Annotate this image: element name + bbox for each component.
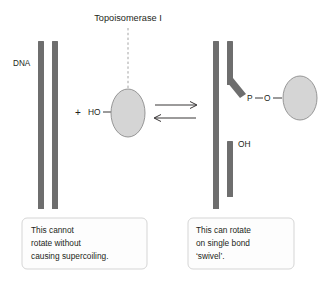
dna-strand-right-cleaved-upper [227, 41, 233, 85]
plus-sign: + [75, 107, 81, 118]
callout-left: This cannot rotate without causing super… [22, 218, 147, 269]
hydroxyl-label-right: OH [238, 139, 251, 149]
hydroxyl-label-left: HO [88, 107, 101, 117]
callout-left-line-1: This cannot [31, 225, 75, 235]
dna-strand-right-continuous [213, 41, 219, 209]
callout-left-line-2: rotate without [31, 238, 82, 248]
callout-left-line-3: causing supercoiling. [31, 251, 108, 261]
callout-right-line-1: This can rotate [196, 225, 251, 235]
diagram-canvas: Topoisomerase I DNA + HO P O OH [0, 0, 328, 287]
dna-label: DNA [13, 59, 31, 68]
callout-right: This can rotate on single bond ‘swivel’. [188, 218, 294, 269]
dna-strand-left-inner [52, 41, 58, 209]
topoisomerase-figure: Topoisomerase I DNA + HO P O OH [0, 0, 328, 287]
topoisomerase-enzyme-bound [283, 76, 317, 120]
callout-right-line-3: ‘swivel’. [196, 251, 225, 261]
topoisomerase-enzyme-free [111, 89, 145, 137]
dna-strand-right-cleaved-lower [227, 141, 233, 197]
figure-title: Topoisomerase I [94, 13, 161, 23]
oxygen-label: O [264, 93, 271, 103]
callout-right-line-2: on single bond [196, 238, 250, 248]
phosphate-label: P [247, 93, 253, 103]
dna-strand-right-bend [227, 78, 246, 98]
equilibrium-arrows [154, 102, 197, 122]
dna-strand-left-outer [38, 41, 44, 209]
